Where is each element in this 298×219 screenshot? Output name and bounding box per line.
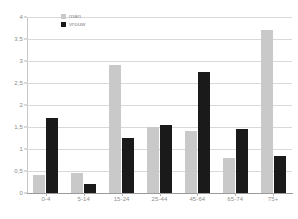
y-tick-label: 1 bbox=[20, 146, 23, 152]
y-tick-label: 4 bbox=[20, 14, 23, 20]
bar-vrouw bbox=[84, 184, 96, 193]
bar-man bbox=[33, 175, 45, 193]
legend-item-vrouw: vrouw bbox=[61, 21, 86, 27]
bar-groups bbox=[27, 17, 292, 193]
bar-vrouw bbox=[198, 72, 210, 193]
y-tick-label: 1,5 bbox=[14, 124, 23, 130]
bar-man bbox=[109, 65, 121, 193]
legend-label-vrouw: vrouw bbox=[69, 21, 86, 27]
bar-vrouw bbox=[122, 138, 134, 193]
x-tick-label: 65-74 bbox=[216, 196, 254, 202]
y-tick-label: 2 bbox=[20, 102, 23, 108]
bar-vrouw bbox=[236, 129, 248, 193]
chart-legend: man vrouw bbox=[61, 13, 86, 27]
legend-label-man: man bbox=[69, 13, 81, 19]
y-tick-label: 2,5 bbox=[14, 80, 23, 86]
bar-group bbox=[27, 17, 65, 193]
bar-man bbox=[71, 173, 83, 193]
x-tick-label: 0-4 bbox=[27, 196, 65, 202]
bar-group bbox=[65, 17, 103, 193]
bar-vrouw bbox=[274, 156, 286, 193]
bar-group bbox=[254, 17, 292, 193]
x-tick-label: 25-44 bbox=[141, 196, 179, 202]
bar-man bbox=[147, 127, 159, 193]
x-tick-label: 45-64 bbox=[178, 196, 216, 202]
y-tick-label: 0 bbox=[20, 190, 23, 196]
legend-item-man: man bbox=[61, 13, 86, 19]
bar-man bbox=[185, 131, 197, 193]
bar-chart: 43,532,521,510,50 0-45-1415-2425-4445-64… bbox=[0, 0, 298, 219]
bar-group bbox=[141, 17, 179, 193]
bar-man bbox=[261, 30, 273, 193]
bar-group bbox=[103, 17, 141, 193]
plot-area: 43,532,521,510,50 bbox=[27, 17, 292, 193]
y-tick-label: 3 bbox=[20, 58, 23, 64]
bar-vrouw bbox=[160, 125, 172, 193]
x-tick-label: 5-14 bbox=[65, 196, 103, 202]
legend-swatch-man-icon bbox=[61, 14, 66, 19]
bar-group bbox=[178, 17, 216, 193]
x-tick-label: 15-24 bbox=[103, 196, 141, 202]
legend-swatch-vrouw-icon bbox=[61, 22, 66, 27]
bar-man bbox=[223, 158, 235, 193]
bar-group bbox=[216, 17, 254, 193]
y-tick-label: 0,5 bbox=[14, 168, 23, 174]
x-tick-label: 75+ bbox=[254, 196, 292, 202]
bar-vrouw bbox=[46, 118, 58, 193]
y-tick-label: 3,5 bbox=[14, 36, 23, 42]
